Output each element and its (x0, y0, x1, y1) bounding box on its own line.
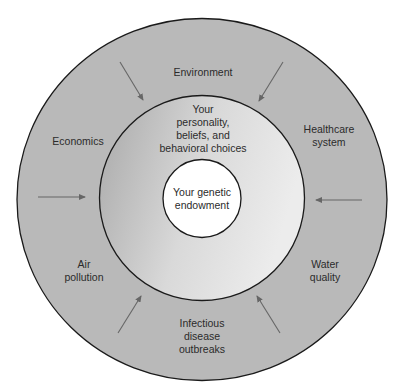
factor-label-air-pollution: Air pollution (64, 258, 103, 284)
factor-label-economics: Economics (52, 135, 103, 148)
factor-label-environment: Environment (174, 66, 233, 79)
factor-label-infectious-disease: Infectious disease outbreaks (179, 317, 225, 356)
factor-label-water-quality: Water quality (310, 258, 340, 284)
health-influences-diagram: Environment Healthcare system Water qual… (0, 0, 403, 392)
core-label: Your genetic endowment (173, 186, 231, 212)
middle-ring-label: Your personality, beliefs, and behaviora… (160, 103, 247, 155)
factor-label-healthcare: Healthcare system (304, 123, 355, 149)
